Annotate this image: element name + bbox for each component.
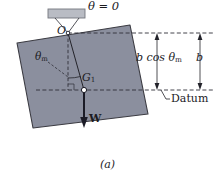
weight-label: W <box>89 113 101 124</box>
support-bar <box>48 9 85 18</box>
datum-label: Datum <box>171 93 208 104</box>
figure-caption: (a) <box>100 159 115 170</box>
pivot-marker <box>66 31 70 35</box>
dimension-arrow-bcos-bottom <box>155 83 160 90</box>
theta-m-subscript: m <box>41 55 48 63</box>
dimension-arrow-b-top <box>198 33 203 40</box>
hanger-string-right <box>68 18 79 33</box>
theta-m-label: θm <box>35 51 48 63</box>
dimension-arrow-bcos-top <box>155 33 160 40</box>
pivot-label: O <box>57 25 66 36</box>
arm-length-label: b <box>196 52 203 63</box>
diagram-canvas <box>0 0 221 179</box>
height-drop-subscript: m <box>175 55 182 64</box>
cg-subscript: 1 <box>91 75 96 84</box>
height-drop-label: b cos θm <box>136 52 182 64</box>
figure-container: θ = 0 O θm G1 W b cos θm b Datum (a) <box>0 0 221 179</box>
cg-symbol: G <box>82 71 91 84</box>
center-of-gravity-label: G1 <box>82 72 95 84</box>
datum-leader-line <box>161 90 170 99</box>
height-drop-expression: b cos θ <box>136 51 175 64</box>
center-of-gravity-marker <box>81 87 86 92</box>
theta-zero-label: θ = 0 <box>88 1 119 13</box>
dimension-arrow-b-bottom <box>198 83 203 90</box>
